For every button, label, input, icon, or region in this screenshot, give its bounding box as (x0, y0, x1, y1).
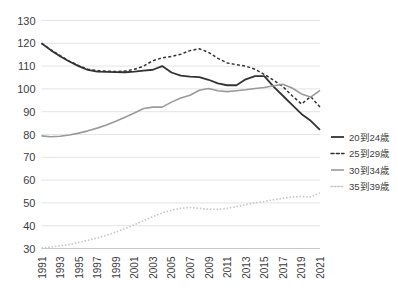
x-tick-label: 1995 (74, 256, 85, 279)
legend-label-0: 20到24歲 (349, 132, 390, 143)
x-tick-label: 2007 (185, 256, 196, 279)
y-tick-label: 100 (17, 83, 35, 95)
x-tick-label: 2003 (148, 256, 159, 279)
y-tick-label: 70 (23, 151, 35, 163)
legend-label-3: 35到39歲 (349, 181, 390, 192)
y-tick-label: 80 (23, 129, 35, 141)
series-line-0 (42, 43, 321, 130)
y-tick-label: 50 (23, 197, 35, 209)
x-tick-label: 2011 (222, 256, 233, 278)
y-tick-label: 60 (23, 174, 35, 186)
x-tick-label: 2005 (166, 256, 177, 279)
x-tick-label: 2013 (241, 256, 252, 279)
legend-label-2: 30到34歲 (349, 165, 390, 176)
chart-container: 30405060708090100110120130 1991199319951… (0, 0, 398, 288)
chart-legend: 20到24歲25到29歲30到34歲35到39歲 (331, 132, 390, 193)
x-tick-label: 2021 (315, 256, 326, 279)
x-tick-label: 1999 (111, 256, 122, 279)
x-tick-label: 2015 (259, 256, 270, 279)
line-chart: 30405060708090100110120130 1991199319951… (0, 0, 398, 288)
x-tick-label: 2009 (204, 256, 215, 279)
x-tick-label: 2017 (278, 256, 289, 279)
y-tick-label: 110 (18, 60, 36, 72)
legend-label-1: 25到29歲 (349, 148, 390, 159)
y-tick-label: 90 (23, 106, 35, 118)
y-tick-label: 130 (17, 15, 35, 27)
series-line-3 (42, 193, 321, 248)
x-tick-label: 1997 (92, 256, 103, 279)
x-tick-label: 1993 (55, 256, 66, 279)
y-tick-label: 30 (23, 243, 35, 255)
y-axis-tick-labels: 30405060708090100110120130 (17, 15, 35, 255)
series-group (42, 43, 321, 248)
x-tick-label: 2001 (129, 256, 140, 279)
x-axis-tick-labels: 1991199319951997199920012003200520072009… (37, 256, 327, 279)
x-tick-label: 1991 (37, 256, 48, 279)
y-tick-label: 40 (23, 220, 35, 232)
x-tick-label: 2019 (296, 256, 307, 279)
y-tick-label: 120 (17, 37, 35, 49)
